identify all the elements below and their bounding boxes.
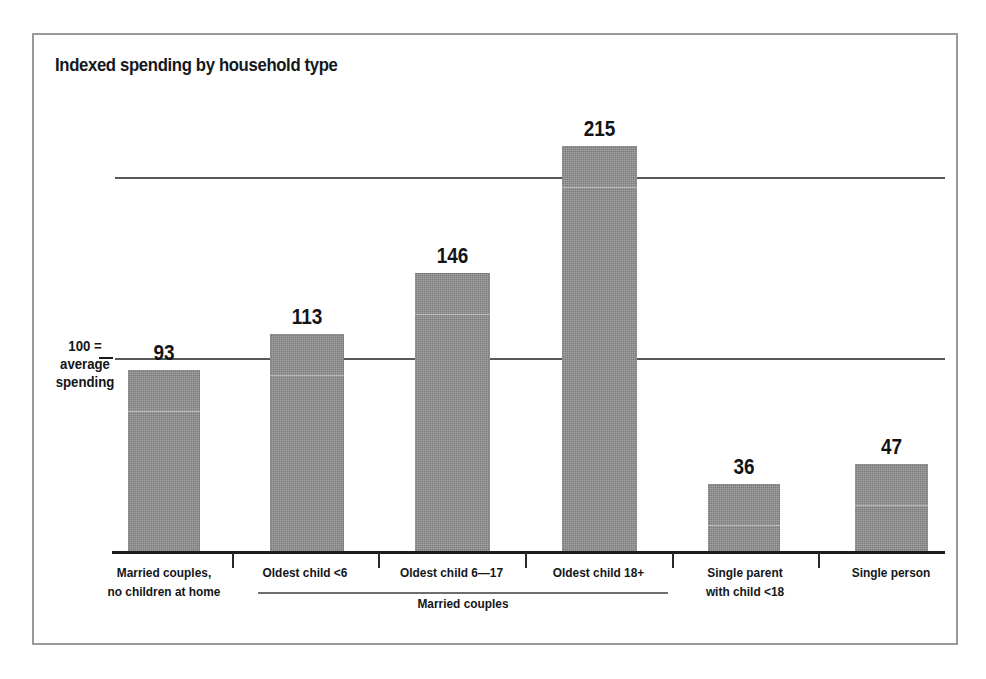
chart-frame xyxy=(32,33,958,645)
chart-title: Indexed spending by household type xyxy=(55,54,338,76)
chart-screenshot: Indexed spending by household type 100 =… xyxy=(0,0,986,679)
